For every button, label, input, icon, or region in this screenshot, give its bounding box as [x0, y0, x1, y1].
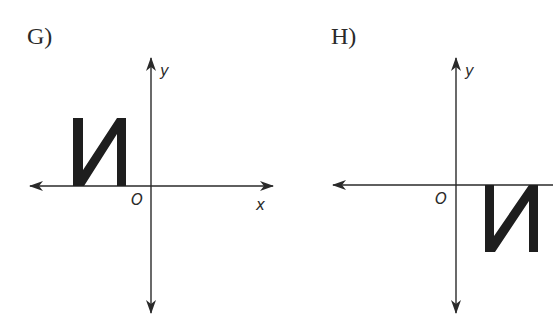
origin-label: O — [435, 190, 447, 208]
coordinate-plane-h: O y — [0, 0, 553, 333]
y-axis-label: y — [464, 62, 475, 80]
panel-h: H) O y — [0, 0, 553, 333]
figure-shape-i-reversed — [485, 185, 538, 252]
